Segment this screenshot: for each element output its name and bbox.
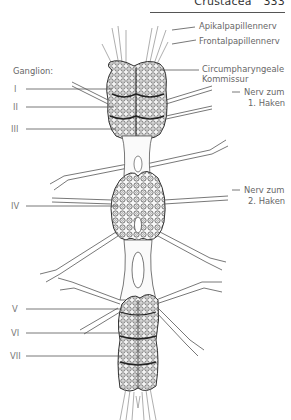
label-nerv-zum-1: Nerv zum xyxy=(244,87,284,97)
label-nerv-zum-2: Nerv zum xyxy=(244,185,284,195)
tail-nerves xyxy=(120,388,156,420)
label-kommissur: Kommissur xyxy=(202,74,248,84)
left-leader-lines xyxy=(26,89,122,356)
label-ganglion-title: Ganglion: xyxy=(13,66,53,76)
label-1-haken: 1. Haken xyxy=(248,98,285,108)
label-2-haken: 2. Haken xyxy=(248,196,285,206)
label-ganglion-ii: II xyxy=(13,102,18,112)
ganglion-group-5-7 xyxy=(118,294,159,391)
label-ganglion-i: I xyxy=(14,84,16,94)
label-ganglion-vi: VI xyxy=(11,328,19,338)
ganglion-4 xyxy=(111,171,165,242)
label-ganglion-iii: III xyxy=(11,124,18,134)
nervous-system-diagram xyxy=(0,0,291,420)
label-apikalpapillennerv: Apikalpapillennerv xyxy=(199,21,277,31)
ganglion-group-1-3 xyxy=(107,61,167,139)
label-ganglion-v: V xyxy=(12,304,18,314)
apical-nerves xyxy=(102,26,168,66)
label-frontalpapillennerv: Frontalpapillennerv xyxy=(199,36,280,46)
label-ganglion-iv: IV xyxy=(11,201,19,211)
label-circumpharyngeale: Circumpharyngeale xyxy=(202,64,284,74)
label-ganglion-vii: VII xyxy=(10,351,21,361)
